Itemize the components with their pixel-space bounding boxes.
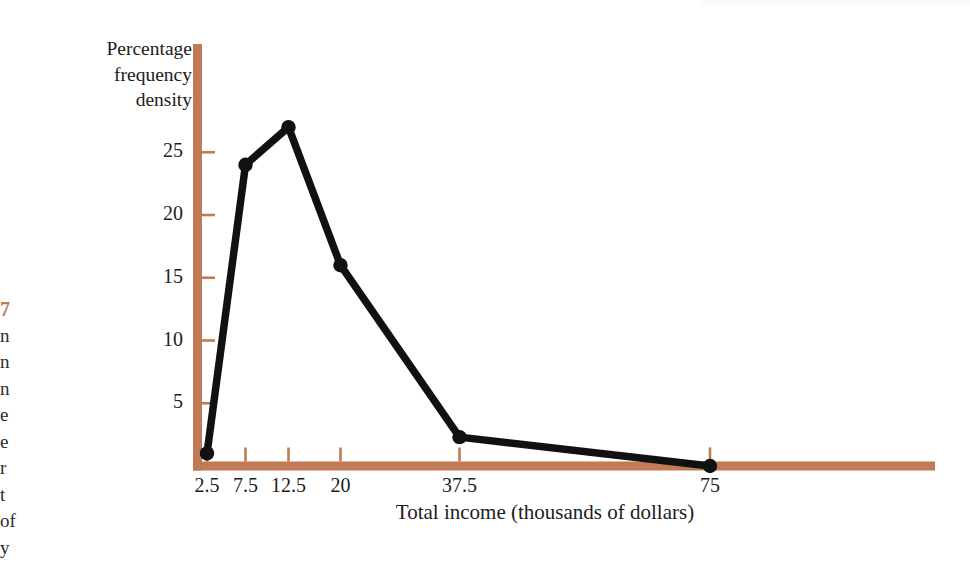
x-tick-label-20: 20 [306,474,376,497]
y-axis-line [193,44,202,471]
x-tick-mark-4 [458,448,461,462]
series-polyline [207,127,710,466]
y-tick-label-20: 20 [131,202,183,225]
y-tick-mark-4 [202,151,215,154]
data-point-2.5 [200,446,214,460]
x-axis-line [193,462,935,471]
y-axis-title-line-0: Percentage [52,36,192,62]
y-axis-title-line-1: frequency [52,62,192,88]
chart-tick-marks [202,151,711,462]
y-tick-mark-2 [202,276,215,279]
y-tick-label-25: 25 [131,139,183,162]
x-tick-mark-3 [339,448,342,462]
y-tick-label-10: 10 [131,328,183,351]
x-tick-mark-2 [287,448,290,462]
chart-axes [193,44,935,471]
y-tick-label-5: 5 [131,390,183,413]
y-tick-mark-1 [202,339,215,342]
y-tick-label-15: 15 [131,265,183,288]
data-point-markers [200,120,717,473]
data-point-37.5 [452,430,466,444]
data-point-20 [333,258,347,272]
x-tick-label-37.5: 37.5 [425,474,495,497]
data-series-line [207,127,710,466]
x-tick-mark-1 [244,448,247,462]
y-axis-title-line-2: density [52,87,192,113]
data-point-12.5 [281,120,295,134]
x-axis-title: Total income (thousands of dollars) [330,500,760,525]
y-axis-title: Percentage frequency density [52,36,192,113]
x-tick-label-75: 75 [675,474,745,497]
page-root: 7 n n n e e r t of y Percentage frequenc… [0,0,970,564]
y-tick-mark-3 [202,214,215,217]
frequency-polygon-chart: Percentage frequency density Total incom… [0,0,970,564]
data-point-7.5 [238,158,252,172]
data-point-75 [703,459,717,473]
